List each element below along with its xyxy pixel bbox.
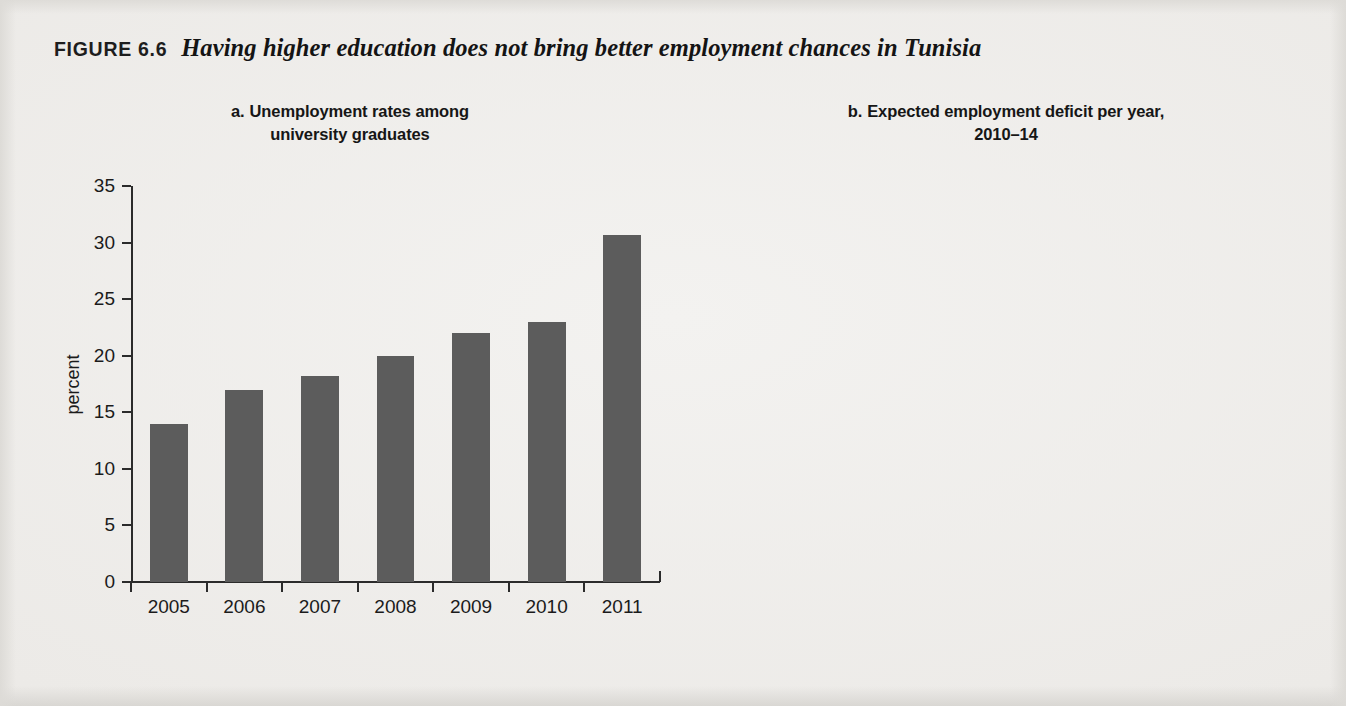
panel-a-label: a. — [231, 102, 245, 120]
y-tick-label: 35 — [69, 175, 115, 197]
panel-a-title: a.Unemployment rates among university gr… — [20, 100, 680, 146]
y-tick — [122, 298, 131, 300]
panel-b-title-line2: 2010–14 — [676, 123, 1336, 146]
paper-edge-top — [0, 0, 1346, 14]
y-axis-title: percent — [63, 325, 84, 445]
bar — [528, 322, 566, 582]
y-tick-label: 0 — [69, 571, 115, 593]
bar — [452, 333, 490, 582]
y-tick-label: 5 — [69, 514, 115, 536]
x-tick — [583, 581, 585, 592]
panel-a-plot-area: 05101520253035percent2005200620072008200… — [131, 186, 660, 582]
paper-edge-left — [0, 0, 16, 706]
bar — [603, 235, 641, 582]
x-tick — [206, 581, 208, 592]
panel-a: a.Unemployment rates among university gr… — [20, 100, 680, 680]
figure-title: Having higher education does not bring b… — [181, 34, 981, 62]
x-tick — [130, 581, 132, 592]
panel-b-label: b. — [848, 102, 862, 120]
figure-number: FIGURE 6.6 — [54, 38, 167, 61]
y-tick-label: 30 — [69, 232, 115, 254]
panel-a-title-line2: university graduates — [20, 123, 680, 146]
panel-b-title-line1: Expected employment deficit per year, — [867, 102, 1164, 120]
y-tick — [122, 185, 131, 187]
y-tick — [122, 468, 131, 470]
panel-b: b.Expected employment deficit per year, … — [676, 100, 1336, 680]
bar — [225, 390, 263, 582]
x-tick — [432, 581, 434, 592]
panel-a-title-line1: Unemployment rates among — [250, 102, 469, 120]
y-tick — [122, 524, 131, 526]
bar — [301, 376, 339, 582]
x-tick — [508, 581, 510, 592]
figure-header: FIGURE 6.6 Having higher education does … — [54, 34, 981, 62]
bar — [377, 356, 415, 582]
x-tick — [357, 581, 359, 592]
paper-edge-bottom — [0, 686, 1346, 706]
x-tick — [659, 571, 661, 582]
bar — [150, 424, 188, 582]
y-tick-label: 10 — [69, 458, 115, 480]
x-tick — [281, 581, 283, 592]
y-tick — [122, 242, 131, 244]
x-tick-label: 2011 — [574, 596, 670, 618]
y-tick — [122, 411, 131, 413]
y-tick-label: 25 — [69, 288, 115, 310]
y-tick — [122, 355, 131, 357]
panel-b-title: b.Expected employment deficit per year, … — [676, 100, 1336, 146]
y-axis-line — [131, 186, 133, 582]
